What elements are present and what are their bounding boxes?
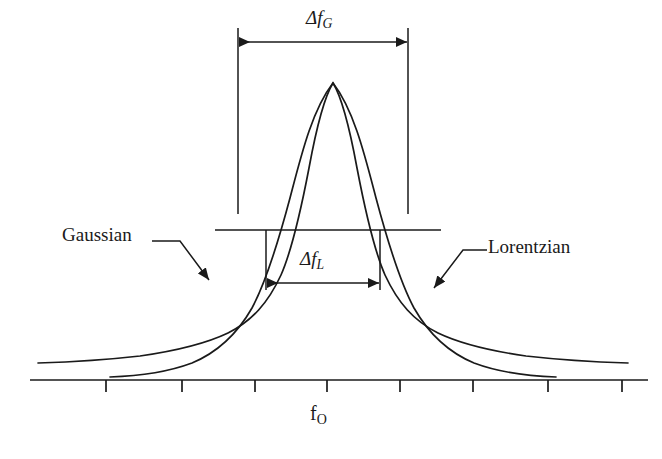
delta-fl-label: ΔfL <box>300 249 324 272</box>
delta-fg-dimension <box>238 28 408 214</box>
lorentzian-leader-line <box>434 250 487 288</box>
delta-fg-label: ΔfG <box>306 8 332 31</box>
x-axis <box>30 380 648 392</box>
lineshape-figure: Gaussian Lorentzian ΔfG ΔfL fO <box>0 0 662 459</box>
x-axis-ticks <box>106 380 622 392</box>
gaussian-label: Gaussian <box>62 225 132 244</box>
axis-center-label: fO <box>310 403 327 427</box>
lorentzian-label-text: Lorentzian <box>488 236 570 257</box>
delta-fg-label-subscript: G <box>322 16 332 31</box>
gaussian-leader-line <box>152 241 209 280</box>
axis-center-label-subscript: O <box>317 412 327 427</box>
delta-fl-label-text: Δf <box>300 248 316 269</box>
axis-center-label-text: f <box>310 402 317 424</box>
delta-fl-label-subscript: L <box>316 257 324 272</box>
gaussian-label-text: Gaussian <box>62 224 132 245</box>
delta-fg-label-text: Δf <box>306 7 322 28</box>
lorentzian-label: Lorentzian <box>488 237 570 256</box>
lorentzian-curve <box>38 83 628 363</box>
